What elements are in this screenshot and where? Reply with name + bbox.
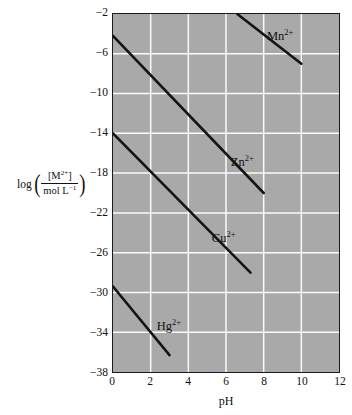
x-tick-label: 12 [325, 376, 352, 388]
x-tick-label: 8 [249, 376, 279, 388]
y-tick-label: −34 [60, 327, 108, 339]
y-tick-label: −22 [60, 207, 108, 219]
y-tick-label: −18 [60, 167, 108, 179]
series-label-zn2+: Zn2+ [231, 156, 254, 169]
y-tick-label: −6 [60, 47, 108, 59]
series-label-mn2+: Mn2+ [267, 30, 293, 43]
x-tick-label: 0 [97, 376, 127, 388]
x-axis-tick-labels: 024681012 [112, 376, 340, 392]
series-label-hg2+: Hg2+ [157, 320, 181, 333]
y-tick-label: −2 [60, 7, 108, 19]
series-labels: Mn2+Zn2+Cu2+Hg2+ [113, 14, 339, 372]
x-tick-label: 4 [173, 376, 203, 388]
y-tick-label: −10 [60, 87, 108, 99]
y-tick-label: −30 [60, 287, 108, 299]
x-tick-label: 6 [211, 376, 241, 388]
numerator-text: [M [48, 170, 61, 181]
y-tick-label: −26 [60, 247, 108, 259]
x-tick-label: 2 [135, 376, 165, 388]
x-tick-label: 10 [287, 376, 317, 388]
plot-area: Mn2+Zn2+Cu2+Hg2+ [112, 13, 340, 373]
series-label-cu2+: Cu2+ [212, 232, 236, 245]
y-axis-tick-labels: −2−6−10−14−18−22−26−30−34−38 [60, 13, 108, 373]
y-tick-label: −14 [60, 127, 108, 139]
y-axis-log-operator: log [17, 178, 33, 190]
x-axis-title: pH [112, 394, 340, 409]
solubility-chart-figure: log([M2+]mol L−1) −2−6−10−14−18−22−26−30… [0, 0, 352, 415]
